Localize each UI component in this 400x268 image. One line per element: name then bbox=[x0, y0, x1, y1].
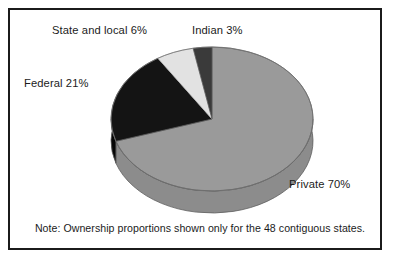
pie-chart-figure: State and local 6% Indian 3% Federal 21%… bbox=[0, 0, 400, 268]
pie-label-indian: Indian 3% bbox=[192, 24, 243, 36]
figure-note: Note: Ownership proportions shown only f… bbox=[0, 222, 400, 234]
pie-chart-area bbox=[8, 8, 382, 250]
pie-label-private: Private 70% bbox=[289, 178, 350, 190]
pie-label-state-and-local: State and local 6% bbox=[52, 24, 147, 36]
pie-chart-graphic bbox=[8, 8, 382, 250]
pie-label-federal: Federal 21% bbox=[24, 77, 89, 89]
